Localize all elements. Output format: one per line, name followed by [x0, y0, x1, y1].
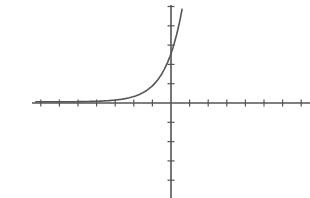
exponential-curve	[35, 9, 182, 102]
graph-canvas	[0, 0, 310, 198]
